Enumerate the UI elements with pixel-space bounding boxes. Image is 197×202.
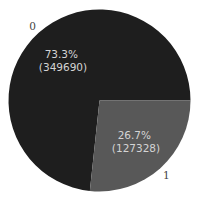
category-label-1: 1 [163,169,170,181]
pie-wedges [9,10,191,192]
wedge-0-percent-label: 73.3% (349690) [39,48,87,73]
wedge-1-percent: 26.7% [118,129,151,141]
category-label-0: 0 [29,20,36,32]
wedge-1-count: (127328) [112,142,160,154]
wedge-0-count: (349690) [39,61,87,73]
wedge-1-percent-label: 26.7% (127328) [112,129,160,154]
pie-chart: 73.3% (349690) 26.7% (127328) 0 1 [0,0,197,202]
wedge-0-percent: 73.3% [45,48,78,60]
